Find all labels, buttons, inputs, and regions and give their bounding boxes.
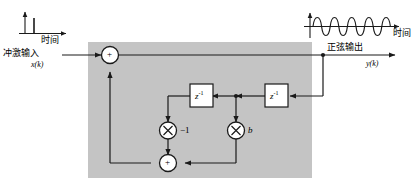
output-plot-time-label: 时间 — [393, 29, 411, 38]
diagram-canvas: 时间 冲激输入 x(k) 时间 正弦输出 y(k) + + z-1 z-1 −1… — [0, 0, 420, 190]
sine-plot — [304, 13, 399, 38]
output-signal-label: 正弦输出 — [327, 43, 363, 52]
summer-top-sign: + — [107, 50, 112, 59]
input-plot-time-label: 时间 — [41, 36, 59, 45]
delay-block-1-exponent: -1 — [199, 90, 204, 96]
summer-bottom-sign: + — [165, 158, 170, 167]
multiplier-b-gain-label: b — [248, 126, 253, 135]
input-variable-label: x(k) — [31, 61, 43, 69]
delay-block-2-exponent: -1 — [274, 90, 279, 96]
delay-block-2-label: z-1 — [270, 90, 279, 101]
junction-output-tap — [321, 53, 325, 57]
multiplier-neg1-gain-label: −1 — [180, 126, 190, 135]
junction-mid-node — [234, 94, 238, 98]
impulse-plot — [19, 12, 66, 34]
diagram-graphics — [0, 0, 420, 190]
input-signal-label: 冲激输入 — [3, 49, 39, 58]
delay-block-1-label: z-1 — [195, 90, 204, 101]
output-variable-label: y(k) — [366, 60, 378, 68]
filter-block-region — [88, 42, 312, 178]
